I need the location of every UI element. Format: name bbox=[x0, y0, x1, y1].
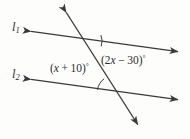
geometry-drawing bbox=[0, 0, 190, 139]
angle-lower-operator: + bbox=[59, 62, 71, 74]
line-label-l2-subscript: 2 bbox=[15, 72, 19, 82]
angle-lower-degree-icon: ° bbox=[86, 62, 89, 71]
angle-upper-constant: 30 bbox=[127, 54, 139, 66]
angle-lower-constant: 10 bbox=[70, 62, 82, 74]
angle-label-upper: (2x−30)° bbox=[101, 55, 146, 67]
angle-upper-variable: x bbox=[111, 54, 116, 66]
angle-label-lower: (x+10)° bbox=[50, 63, 89, 75]
geometry-figure: l1 l2 (2x−30)° (x+10)° bbox=[0, 0, 190, 139]
line-label-l2: l2 bbox=[12, 68, 20, 82]
angle-upper-operator: − bbox=[116, 54, 128, 66]
line-label-l1: l1 bbox=[12, 21, 20, 35]
angle-upper-degree-icon: ° bbox=[143, 54, 146, 63]
line-label-l1-subscript: 1 bbox=[15, 25, 19, 35]
line-l2 bbox=[31, 79, 178, 99]
line-l1 bbox=[31, 31, 178, 51]
